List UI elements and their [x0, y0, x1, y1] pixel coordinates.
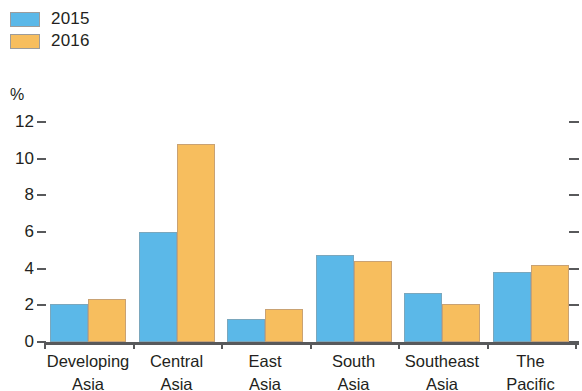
- y-axis-tick-mark-right: [569, 121, 579, 123]
- y-axis-tick-mark-right: [569, 304, 579, 306]
- bar-2015: [139, 232, 177, 342]
- x-axis-tick-mark: [398, 343, 400, 349]
- x-axis-category-label: EastAsia: [215, 350, 315, 391]
- bar-2015: [227, 319, 265, 342]
- bar-2016: [265, 309, 303, 342]
- y-axis-tick-label: 2: [0, 295, 34, 315]
- bar-2015: [404, 293, 442, 342]
- plot-area: 024681012DevelopingAsiaCentralAsiaEastAs…: [0, 0, 582, 391]
- y-axis-tick-mark-right: [569, 158, 579, 160]
- bar-chart: 2015 2016 % 024681012DevelopingAsiaCentr…: [0, 0, 582, 391]
- category-label-line: Asia: [127, 373, 227, 391]
- y-axis-tick-label: 12: [0, 112, 34, 132]
- category-label-line: The: [481, 350, 581, 373]
- x-axis-category-label: SoutheastAsia: [392, 350, 492, 391]
- y-axis-tick-mark: [37, 231, 46, 233]
- x-axis-line: [44, 342, 579, 345]
- y-axis-tick-label: 6: [0, 222, 34, 242]
- category-label-line: Asia: [38, 373, 138, 391]
- x-axis-category-label: ThePacific: [481, 350, 581, 391]
- x-axis-tick-mark: [487, 343, 489, 349]
- x-axis-tick-mark: [133, 343, 135, 349]
- y-axis-tick-label: 8: [0, 185, 34, 205]
- y-axis-tick-mark-right: [569, 341, 579, 343]
- y-axis-tick-mark-right: [569, 194, 579, 196]
- x-axis-tick-mark: [575, 343, 577, 349]
- category-label-line: Southeast: [392, 350, 492, 373]
- y-axis-tick-label: 10: [0, 149, 34, 169]
- bar-2015: [493, 272, 531, 342]
- y-axis-tick-mark-right: [569, 268, 579, 270]
- category-label-line: Developing: [38, 350, 138, 373]
- x-axis-category-label: SouthAsia: [304, 350, 404, 391]
- category-label-line: Asia: [392, 373, 492, 391]
- y-axis-tick-mark: [37, 121, 46, 123]
- bar-2016: [531, 265, 569, 342]
- y-axis-tick-label: 4: [0, 259, 34, 279]
- y-axis-tick-mark: [37, 194, 46, 196]
- x-axis-category-label: CentralAsia: [127, 350, 227, 391]
- category-label-line: East: [215, 350, 315, 373]
- category-label-line: Asia: [304, 373, 404, 391]
- category-label-line: Asia: [215, 373, 315, 391]
- x-axis-tick-mark: [221, 343, 223, 349]
- x-axis-tick-mark: [44, 343, 46, 349]
- y-axis-tick-mark: [37, 268, 46, 270]
- bar-2016: [442, 304, 480, 342]
- bar-2016: [177, 144, 215, 342]
- y-axis-tick-mark: [37, 158, 46, 160]
- category-label-line: Central: [127, 350, 227, 373]
- bar-2016: [354, 261, 392, 342]
- y-axis-tick-mark-right: [569, 231, 579, 233]
- bar-2015: [50, 304, 88, 343]
- category-label-line: Pacific: [481, 373, 581, 391]
- bar-2016: [88, 299, 126, 342]
- bar-2015: [316, 255, 354, 342]
- y-axis-tick-mark: [37, 304, 46, 306]
- x-axis-category-label: DevelopingAsia: [38, 350, 138, 391]
- y-axis-tick-label: 0: [0, 332, 34, 352]
- x-axis-tick-mark: [310, 343, 312, 349]
- category-label-line: South: [304, 350, 404, 373]
